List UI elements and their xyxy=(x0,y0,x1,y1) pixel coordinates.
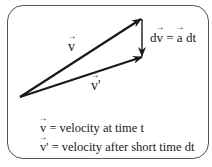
velocity-vector-v xyxy=(20,19,141,97)
label-dv-equals-a-dt: dv = a dt xyxy=(150,31,196,44)
legend-text-v-prime: = velocity after short time dt xyxy=(49,140,195,154)
dt-text: dt xyxy=(183,30,196,45)
legend-symbol-v-prime: v xyxy=(40,141,46,154)
equals-sign: = xyxy=(163,30,177,45)
vector-symbol-v-prime: v xyxy=(91,79,98,93)
legend-item-v-prime: v' = velocity after short time dt xyxy=(40,141,194,154)
label-v: v xyxy=(68,40,75,54)
label-v-prime: v' xyxy=(91,79,101,93)
legend-text-v: = velocity at time t xyxy=(46,121,144,135)
legend-item-v: v = velocity at time t xyxy=(40,122,144,135)
dv-vector-v: v xyxy=(157,31,164,44)
vector-symbol-v: v xyxy=(68,40,75,54)
prime-mark: ' xyxy=(98,78,101,93)
velocity-vector-v-prime xyxy=(20,57,142,97)
acceleration-vector-a: a xyxy=(177,31,183,44)
